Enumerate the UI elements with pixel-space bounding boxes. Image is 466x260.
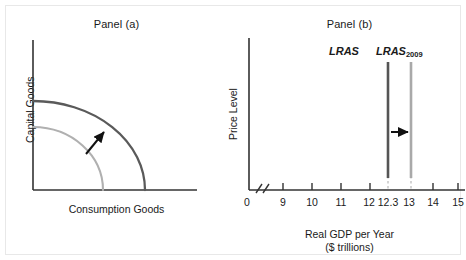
panel-b-tick-marks (283, 183, 458, 190)
panel-a: Panel (a) Capital Goods Consumption Good… (0, 0, 233, 260)
panel-a-inner-ppf-curve (33, 127, 103, 190)
panel-b-axis-break-slash-1 (256, 184, 262, 193)
panel-a-outer-ppf-curve (33, 101, 145, 190)
panel-a-growth-arrow (86, 132, 104, 154)
panel-b-axis-break-slash-2 (263, 184, 269, 193)
panel-b-plot (233, 0, 466, 260)
panel-b: Panel (b) Price Level Real GDP per Year … (233, 0, 466, 260)
panel-a-plot (0, 0, 233, 260)
economic-growth-figure: Panel (a) Capital Goods Consumption Good… (0, 0, 466, 260)
